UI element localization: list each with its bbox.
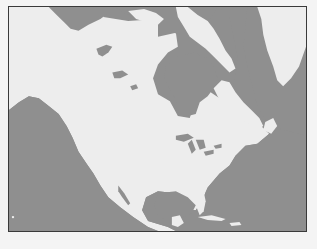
north-america-map xyxy=(9,7,306,231)
island-dot xyxy=(12,216,14,218)
map-frame xyxy=(8,6,307,232)
